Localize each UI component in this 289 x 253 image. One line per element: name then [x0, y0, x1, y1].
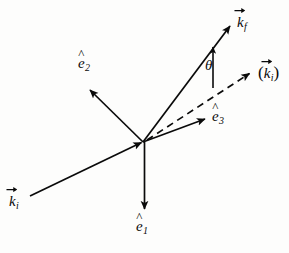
label-k-final: k f	[237, 14, 247, 32]
label-theta-glyph: θ	[205, 57, 212, 73]
circumflex-icon: ^	[212, 100, 218, 113]
vector-canvas	[0, 0, 289, 253]
k-final-vector-glyph: k	[237, 14, 244, 30]
label-e3: ^ e 3	[212, 108, 224, 126]
k-initial-vector-glyph: k	[9, 193, 16, 209]
label-e2: ^ e 2	[78, 55, 90, 73]
scattering-vector-diagram: k f k i ( k i) ^ e 1 ^ e	[0, 0, 289, 253]
label-e1-subscript: 1	[143, 225, 148, 236]
label-k-initial-primed: ( k i)	[258, 64, 279, 83]
e2-hat-glyph: ^ e	[78, 55, 85, 71]
label-k-initial-base: k	[9, 193, 16, 209]
circumflex-icon: ^	[78, 47, 84, 60]
label-e1: ^ e 1	[136, 218, 148, 236]
label-k-initial: k i	[9, 193, 19, 211]
e2-basis-arrow	[90, 90, 143, 142]
label-e2-subscript: 2	[85, 62, 90, 73]
k-initial-primed-arrow	[147, 74, 250, 141]
label-close-paren: )	[273, 63, 279, 82]
k-initial-arrow	[30, 143, 142, 197]
circumflex-icon: ^	[136, 210, 142, 223]
e1-hat-glyph: ^ e	[136, 218, 143, 234]
label-k-final-subscript: f	[244, 21, 247, 32]
label-k-final-base: k	[237, 14, 244, 30]
label-theta: θ	[205, 57, 212, 73]
label-k-initial-subscript: i	[16, 200, 19, 211]
label-k-initial-primed-base: k	[264, 65, 271, 81]
k-initial-primed-vector-glyph: k	[264, 65, 271, 81]
e3-hat-glyph: ^ e	[212, 108, 219, 124]
label-e3-subscript: 3	[219, 115, 224, 126]
